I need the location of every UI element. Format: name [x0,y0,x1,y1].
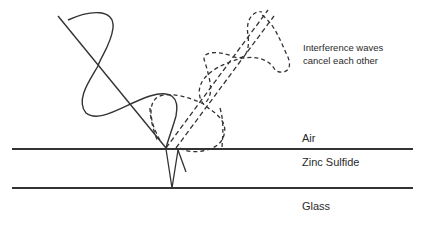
layer-label-zinc-sulfide: Zinc Sulfide [302,156,359,169]
transmitted-ray [178,150,186,172]
thin-film-interference-diagram [0,0,427,230]
reflected-wave-2 [180,15,290,152]
reflected-ray-1 [166,10,268,148]
layer-label-air: Air [302,132,315,145]
annotation-line-2: cancel each other [303,54,378,67]
annotation-line-1: Interference waves [303,41,383,54]
incident-wave [68,13,177,148]
layer-label-glass: Glass [302,200,330,213]
refracted-ray [166,149,178,188]
